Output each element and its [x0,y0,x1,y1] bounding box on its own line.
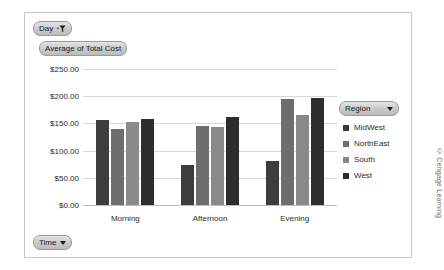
legend-swatch [343,141,349,147]
pivot-field-button-region[interactable]: Region [339,101,399,116]
legend-item-label: MidWest [354,123,385,132]
legend-item: MidWest [339,123,409,132]
x-axis-category-label: Morning [111,214,140,223]
legend-swatch [343,125,349,131]
legend-swatch [343,173,349,179]
bar[interactable] [296,115,309,205]
legend-item: West [339,171,409,180]
bar[interactable] [266,161,279,205]
legend-swatch [343,157,349,163]
x-axis-category-label: Evening [280,214,309,223]
y-axis-tick-label: $150.00 [27,119,79,128]
bar[interactable] [96,120,109,205]
x-axis-category-label: Afternoon [193,214,228,223]
bar[interactable] [126,122,139,205]
legend-items: MidWestNorthEastSouthWest [339,123,409,180]
bar[interactable] [211,127,224,205]
legend-item-label: South [354,155,375,164]
pivot-field-button-region-label: Region [345,104,370,113]
y-axis: $0.00$50.00$100.00$150.00$200.00$250.00 [27,13,79,259]
legend-item-label: NorthEast [354,139,390,148]
bar[interactable] [196,126,209,205]
bar-series-container: MorningAfternoonEvening [83,13,337,259]
legend-item: NorthEast [339,139,409,148]
bar[interactable] [111,129,124,205]
bar[interactable] [181,165,194,205]
y-axis-tick-label: $0.00 [27,201,79,210]
legend-item: South [339,155,409,164]
bar[interactable] [311,98,324,205]
bar[interactable] [141,119,154,205]
y-axis-tick-label: $50.00 [27,173,79,182]
y-axis-tick-label: $100.00 [27,146,79,155]
y-axis-tick-label: $200.00 [27,92,79,101]
bar[interactable] [226,117,239,205]
y-axis-tick-label: $250.00 [27,65,79,74]
legend-item-label: West [354,171,372,180]
legend: Region MidWestNorthEastSouthWest [339,97,409,180]
attribution-text: © Cengage Learning [436,148,443,218]
pivot-chart-frame: Day Average of Total Cost Time $0.00$50.… [24,12,412,258]
bar[interactable] [281,99,294,205]
chevron-down-icon [387,107,393,111]
